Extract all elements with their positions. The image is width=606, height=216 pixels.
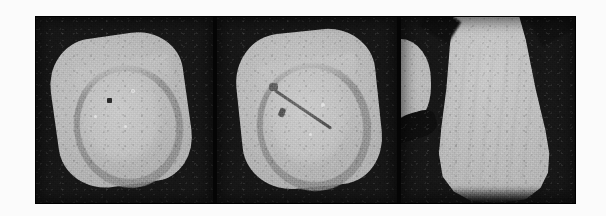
panel-divider: [213, 17, 217, 203]
scan-image-strip: [35, 16, 576, 204]
panel-sagittal-slice[interactable]: [401, 17, 576, 203]
bright-speck: [124, 125, 127, 128]
inferior-shadow: [419, 187, 569, 203]
figure-root: [0, 0, 606, 216]
page-margin-left: [0, 0, 35, 216]
bright-speck: [131, 89, 135, 93]
bright-speck: [309, 133, 312, 136]
bright-speck: [321, 103, 325, 107]
page-margin-bottom: [0, 204, 606, 216]
panel-divider: [397, 17, 401, 203]
focal-dark-dot-marker: [107, 98, 112, 103]
page-margin-right: [576, 0, 606, 216]
panel-axial-slice-with-needle[interactable]: [217, 17, 397, 203]
page-margin-top: [0, 0, 606, 16]
bright-speck: [94, 115, 97, 118]
internal-striations: [437, 47, 543, 187]
panel-axial-slice-pre[interactable]: [36, 17, 213, 203]
